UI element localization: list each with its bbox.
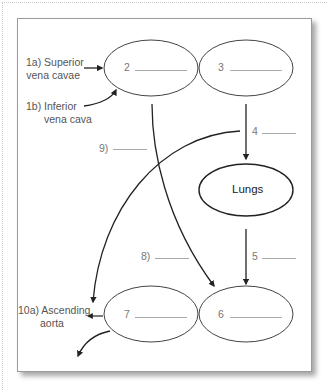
vessel-8-answer-blank[interactable] (155, 258, 189, 259)
vessel-9-number: 9) (99, 142, 108, 154)
arrow-9 (93, 131, 240, 302)
vessel-5-number: 5 (252, 250, 258, 262)
label-superior-vena-cavae: 1a) Superior vena cavae (26, 56, 80, 82)
node-2-number: 2 (124, 61, 130, 73)
node-6-number: 6 (218, 308, 224, 320)
node-6-ellipse (199, 286, 293, 342)
node-2-answer-blank[interactable] (135, 70, 187, 71)
node-7-ellipse (104, 286, 198, 342)
vessel-4-answer-blank[interactable] (262, 133, 296, 134)
label-ascending-line2: aorta (18, 317, 86, 330)
label-ascending-line1: 10a) Ascending (18, 304, 86, 317)
arrow-10b (78, 331, 110, 356)
node-3-answer-blank[interactable] (230, 70, 282, 71)
label-inferior-line2: vena cava (26, 113, 86, 126)
vessel-4-number: 4 (252, 125, 258, 137)
vessel-9-answer-blank[interactable] (113, 149, 147, 150)
vessel-8-number: 8) (141, 250, 150, 262)
node-3-ellipse (199, 40, 293, 96)
arrow-1b (84, 90, 116, 106)
node-7-number: 7 (124, 308, 130, 320)
lungs-label: Lungs (232, 183, 263, 195)
label-inferior-vena-cava: 1b) Inferior vena cava (26, 100, 86, 126)
diagram-canvas: 1a) Superior vena cavae 1b) Inferior ven… (0, 0, 327, 390)
node-2-ellipse (104, 40, 198, 96)
label-ascending-aorta: 10a) Ascending aorta (18, 304, 86, 330)
node-6-answer-blank[interactable] (230, 317, 282, 318)
label-superior-line2: vena cavae (26, 69, 80, 82)
vessel-5-answer-blank[interactable] (262, 258, 296, 259)
label-inferior-line1: 1b) Inferior (26, 100, 86, 113)
node-3-number: 3 (218, 61, 224, 73)
node-7-answer-blank[interactable] (135, 317, 187, 318)
label-superior-line1: 1a) Superior (26, 56, 80, 69)
